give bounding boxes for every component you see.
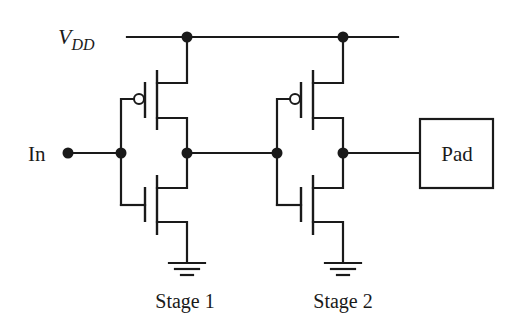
stage-2-vdd-node xyxy=(338,32,349,43)
stage-1-vdd-node xyxy=(182,32,193,43)
ground-icon xyxy=(325,263,361,275)
stage-2-pmos-transistor xyxy=(290,37,343,153)
ground-icon xyxy=(169,263,205,275)
circuit-diagram: VDD In St xyxy=(0,0,517,329)
vdd-label: VDD xyxy=(58,24,95,53)
pmos-inversion-bubble xyxy=(290,94,300,104)
pad-box: Pad xyxy=(420,119,493,188)
stage-2-label: Stage 2 xyxy=(313,290,372,313)
stage-2-nmos-transistor xyxy=(301,153,343,263)
pmos-inversion-bubble xyxy=(134,94,144,104)
stage-1-pmos-transistor xyxy=(134,37,187,153)
input-label: In xyxy=(28,142,46,166)
pad-label: Pad xyxy=(441,142,473,166)
stage-1-nmos-transistor xyxy=(145,153,187,263)
stage-1-label: Stage 1 xyxy=(155,290,214,313)
